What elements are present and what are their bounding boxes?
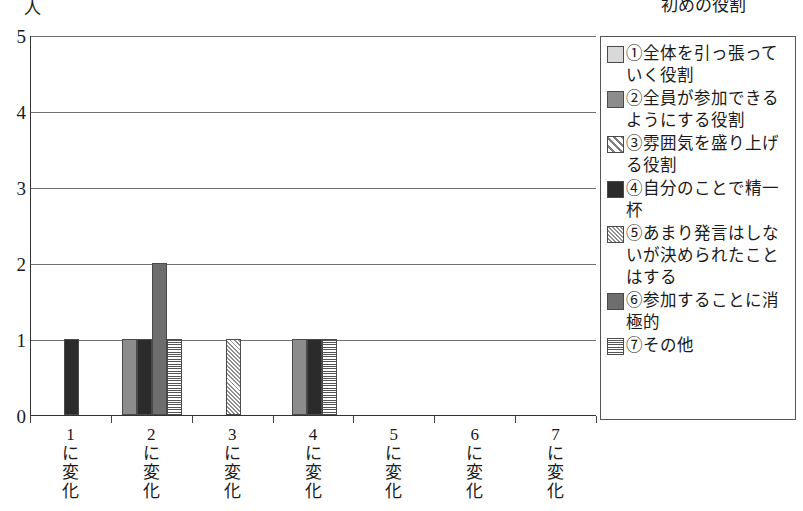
y-tick-label-0: 0 — [2, 407, 26, 426]
bar-4に変化-series2 — [292, 339, 307, 415]
y-tick-label-4: 4 — [2, 103, 26, 122]
legend-swatch-fine-diagonal-hatch-icon — [607, 226, 624, 243]
legend-item-2[interactable]: ②全員が参加できるようにする役割 — [607, 88, 790, 132]
legend-label-6: ⑥参加することに消極的 — [626, 290, 790, 334]
legend-swatch-light-gray-fill-icon — [607, 46, 624, 63]
bar-3に変化-series5 — [226, 339, 241, 415]
legend-title: 初めの役割 — [608, 0, 798, 15]
x-axis-label-5: 5 に 変 化 — [374, 425, 414, 501]
legend-label-1: ①全体を引っ張っていく役割 — [626, 43, 790, 87]
y-tick-label-5: 5 — [2, 27, 26, 46]
legend-item-4[interactable]: ④自分のことで精一杯 — [607, 178, 790, 222]
x-axis: 1 に 変 化2 に 変 化3 に 変 化4 に 変 化5 に 変 化6 に 変… — [30, 416, 596, 511]
y-axis: 012345 — [0, 36, 26, 416]
gridline-3 — [31, 188, 596, 189]
bar-2に変化-series6 — [152, 263, 167, 415]
legend-item-6[interactable]: ⑥参加することに消極的 — [607, 290, 790, 334]
bar-2に変化-series2 — [122, 339, 137, 415]
x-axis-label-4: 4 に 変 化 — [293, 425, 333, 501]
y-tick-label-2: 2 — [2, 255, 26, 274]
gridline-5 — [31, 36, 596, 37]
bar-1に変化-series4 — [64, 339, 79, 415]
x-tick-2 — [192, 416, 193, 423]
bar-4に変化-series7 — [322, 339, 337, 415]
legend-swatch-dark-gray-fill-icon — [607, 293, 624, 310]
bar-2に変化-series7 — [167, 339, 182, 415]
legend-swatch-black-fill-icon — [607, 181, 624, 198]
bar-2に変化-series4 — [137, 339, 152, 415]
x-axis-label-6: 6 に 変 化 — [455, 425, 495, 501]
legend-label-7: ⑦その他 — [626, 335, 790, 357]
x-axis-label-3: 3 に 変 化 — [212, 425, 252, 501]
legend-item-1[interactable]: ①全体を引っ張っていく役割 — [607, 43, 790, 87]
legend-label-5: ⑤あまり発言はしないが決められたことはする — [626, 223, 790, 289]
legend-swatch-wide-diagonal-hatch-icon — [607, 136, 624, 153]
y-tick-label-3: 3 — [2, 179, 26, 198]
legend-box: ①全体を引っ張っていく役割②全員が参加できるようにする役割③雰囲気を盛り上げる役… — [600, 36, 796, 420]
x-axis-label-2: 2 に 変 化 — [131, 425, 171, 501]
legend-label-3: ③雰囲気を盛り上げる役割 — [626, 133, 790, 177]
plot-area — [30, 36, 596, 416]
x-axis-label-7: 7 に 変 化 — [536, 425, 576, 501]
x-tick-1 — [111, 416, 112, 423]
legend-item-7[interactable]: ⑦その他 — [607, 335, 790, 357]
y-axis-unit-label: 人 — [24, 0, 41, 17]
gridline-2 — [31, 264, 596, 265]
x-tick-0 — [30, 416, 31, 423]
x-tick-5 — [434, 416, 435, 423]
legend-item-5[interactable]: ⑤あまり発言はしないが決められたことはする — [607, 223, 790, 289]
legend-swatch-medium-gray-fill-icon — [607, 91, 624, 108]
bar-4に変化-series4 — [307, 339, 322, 415]
legend-label-2: ②全員が参加できるようにする役割 — [626, 88, 790, 132]
gridline-4 — [31, 112, 596, 113]
x-tick-7 — [596, 416, 597, 423]
legend-item-3[interactable]: ③雰囲気を盛り上げる役割 — [607, 133, 790, 177]
x-axis-label-1: 1 に 変 化 — [50, 425, 90, 501]
plot-inner — [31, 36, 596, 415]
x-tick-6 — [515, 416, 516, 423]
legend-label-4: ④自分のことで精一杯 — [626, 178, 790, 222]
y-tick-label-1: 1 — [2, 331, 26, 350]
x-tick-3 — [273, 416, 274, 423]
x-tick-4 — [353, 416, 354, 423]
legend-swatch-cross-hatch-icon — [607, 338, 624, 355]
